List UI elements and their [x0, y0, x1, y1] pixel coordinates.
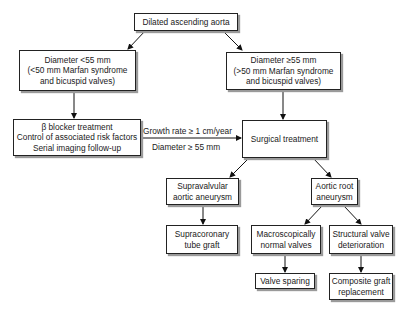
node-composite-graft-replacement: Composite graft replacement: [329, 273, 393, 300]
node-label: (>50 mm Marfan syndrome: [234, 66, 334, 76]
node-label: Diameter ≥55 mm: [251, 55, 317, 65]
node-label: and bicuspid valves): [246, 76, 321, 86]
node-diameter-above-55: Diameter ≥55 mm (>50 mm Marfan syndrome …: [226, 52, 341, 90]
node-structural-valve-deterioration: Structural valve deterioration: [329, 225, 393, 254]
node-label: Surgical treatment: [251, 134, 318, 144]
node-label: Macroscopically: [256, 229, 315, 239]
node-label: Serial imaging follow-up: [33, 143, 121, 153]
node-label: Structural valve: [332, 229, 389, 239]
node-label: tube graft: [184, 240, 219, 250]
node-label: Dilated ascending aorta: [142, 17, 229, 27]
node-medical-treatment: β blocker treatment Control of associate…: [13, 119, 141, 156]
node-label: Valve sparing: [260, 276, 310, 286]
node-label: (<50 mm Marfan syndrome: [28, 65, 128, 75]
node-label: Diameter <55 mm: [44, 55, 110, 65]
node-label: β blocker treatment: [41, 122, 112, 132]
node-supravalvular-aneurysm: Supravalvular aortic aneurysm: [166, 178, 239, 205]
node-label: Control of associated risk factors: [17, 132, 137, 142]
node-diameter-below-55: Diameter <55 mm (<50 mm Marfan syndrome …: [19, 50, 136, 91]
node-label: deterioration: [338, 240, 384, 250]
node-label: and bicuspid valves): [40, 76, 115, 86]
node-label: replacement: [338, 287, 384, 297]
node-label: Supravalvular: [177, 181, 228, 191]
node-label: normal valves: [260, 240, 311, 250]
node-label: Supracoronary: [175, 229, 229, 239]
node-supracoronary-tube-graft: Supracoronary tube graft: [166, 225, 238, 254]
node-label: Composite graft: [332, 276, 391, 286]
node-valve-sparing: Valve sparing: [255, 273, 315, 289]
node-label: aortic aneurysm: [173, 192, 232, 202]
edge-label-growth-rate: Growth rate ≥ 1 cm/year: [143, 126, 232, 136]
node-label: Aortic root: [316, 181, 354, 191]
node-dilated-ascending-aorta: Dilated ascending aorta: [134, 13, 238, 31]
node-surgical-treatment: Surgical treatment: [242, 120, 327, 158]
node-label: aneurysm: [316, 192, 352, 202]
node-normal-valves: Macroscopically normal valves: [251, 225, 321, 254]
edge-label-diameter: Diameter ≥ 55 mm: [152, 142, 220, 152]
node-aortic-root-aneurysm: Aortic root aneurysm: [311, 178, 358, 205]
